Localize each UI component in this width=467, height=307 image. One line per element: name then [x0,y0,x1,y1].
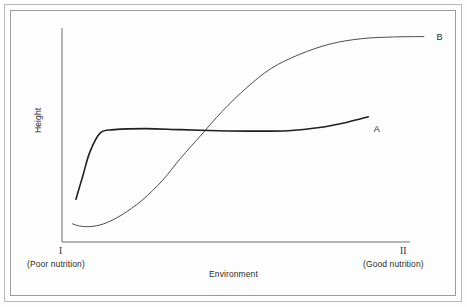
curve-a-label: A [374,124,380,134]
figure-container: Height Environment I II (Poor nutrition)… [0,0,467,307]
y-axis-label: Height [33,117,43,133]
x-tick-label-left: I [59,246,62,256]
curve-b-label: B [436,32,442,42]
x-axis-label: Environment [0,269,467,279]
x-tick-annotation-left: (Poor nutrition) [27,259,85,269]
curve-a-line [76,117,368,199]
x-tick-annotation-right: (Good nutrition) [363,259,424,269]
x-tick-label-right: II [400,246,407,256]
